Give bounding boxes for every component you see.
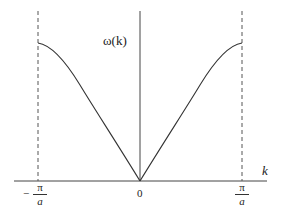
left-tick-denominator: a: [33, 195, 47, 207]
right-tick-label: π a: [235, 182, 249, 207]
center-tick-label: 0: [137, 188, 143, 199]
dispersion-curve-left: [38, 43, 140, 181]
dispersion-curve-right: [140, 43, 242, 181]
left-tick-numerator: π: [33, 182, 47, 195]
right-tick-denominator: a: [235, 195, 249, 207]
left-tick-label: π a: [33, 182, 47, 207]
x-axis-label: k: [262, 164, 268, 177]
right-tick-numerator: π: [235, 182, 249, 195]
y-axis-label: ω(k): [103, 34, 127, 47]
dispersion-diagram: ω(k) k − π a 0 π a: [0, 0, 283, 211]
left-tick-sign: −: [23, 187, 29, 199]
diagram-canvas: [0, 0, 283, 211]
